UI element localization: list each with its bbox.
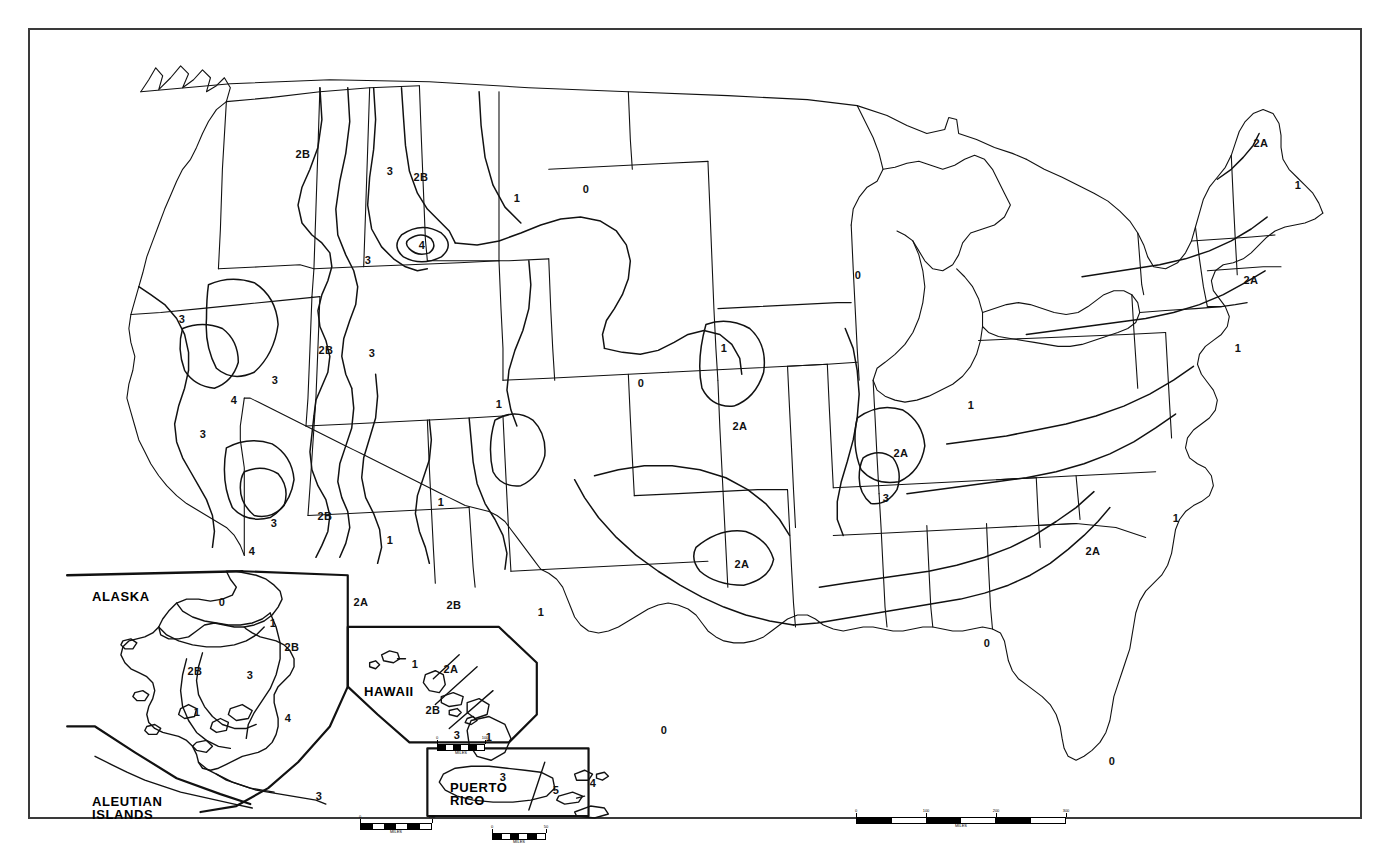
scalebar-tick-label-alaska-1: 200 (429, 814, 436, 819)
zone-label-z-nv-2b: 2B (319, 344, 334, 356)
zone-label-z-tx-0: 0 (661, 724, 668, 736)
zone-label-alaska-ak-2b: 2B (285, 641, 300, 653)
zone-label-z-az-2a: 2A (354, 596, 369, 608)
zone-label-z-nd-1: 1 (514, 192, 521, 204)
zone-label-alaska-ak-1b: 1 (194, 706, 201, 718)
zone-label-z-wa-2b: 2B (296, 148, 311, 160)
zone-label-z-ny-1: 1 (1235, 342, 1242, 354)
map-stage: 2B32B103432B330104312A2A112A12A2B113432A… (30, 30, 1360, 817)
zone-label-z-co-1: 1 (438, 496, 445, 508)
small-island-1 (597, 772, 609, 780)
zone-label-z-ar-3: 3 (883, 492, 890, 504)
zone-label-z-ca-4b: 4 (249, 545, 256, 557)
zone-label-alaska-ak-3: 3 (247, 669, 254, 681)
puerto-rico-inset-layer (30, 30, 1360, 817)
scalebar-alaska: 0200MILES (360, 823, 432, 830)
zone-label-z-ne-1: 1 (496, 398, 503, 410)
zone-label-z-me-1: 1 (1295, 179, 1302, 191)
map-frame: 2B32B103432B330104312A2A112A12A2B113432A… (28, 28, 1362, 819)
zone-label-z-az-2b: 2B (318, 510, 333, 522)
scalebar-tick-label-puerto-1: 50 (544, 824, 548, 829)
zone-label-z-il-2a: 2A (894, 447, 909, 459)
small-island-2 (577, 796, 585, 798)
zone-label-z-id-3: 3 (365, 254, 372, 266)
scalebar-tick-main-3 (1066, 813, 1067, 817)
zone-label-z-ca-3c: 3 (200, 428, 207, 440)
zone-label-z-ks-0: 0 (638, 377, 645, 389)
scalebar-tick-main-0 (856, 813, 857, 817)
scalebar-tick-label-main-1: 100 (923, 808, 930, 813)
zone-label-z-yellow-4: 4 (419, 239, 426, 251)
zone-label-puerto-rico-pr-5: 5 (553, 784, 560, 796)
zone-label-z-fl-0: 0 (1109, 755, 1116, 767)
zone-label-z-tx-1: 1 (538, 606, 545, 618)
zone-label-z-ct-2a: 2A (1244, 274, 1259, 286)
zone-label-z-nm-2b: 2B (447, 599, 462, 611)
scalebar-caption-puerto: MILES (513, 839, 525, 844)
pr-zone-line (529, 762, 545, 810)
scalebar-caption-hawaii: MILES (455, 750, 467, 755)
inset-title-aleutian: ALEUTIAN ISLANDS (92, 795, 163, 821)
zone-label-z-wi-0: 0 (855, 269, 862, 281)
inset-title-puerto: PUERTO RICO (450, 781, 508, 807)
zone-label-hawaii-hi-3: 3 (454, 729, 461, 741)
scalebar-tick-label-hawaii-1: 100 (482, 735, 489, 740)
scalebar-puerto: 050MILES (492, 833, 546, 840)
zone-label-z-ut-3: 3 (369, 347, 376, 359)
zone-label-z-mo-2a: 2A (733, 420, 748, 432)
zone-label-z-ia-1: 1 (721, 342, 728, 354)
zone-label-z-nd-0: 0 (583, 183, 590, 195)
zone-label-hawaii-hi-2b: 2B (426, 704, 441, 716)
scalebar-tick-main-1 (926, 813, 927, 817)
scalebar-tick-label-puerto-0: 0 (491, 824, 493, 829)
zone-label-z-mt-2b: 2B (414, 171, 429, 183)
scalebar-tick-label-main-3: 300 (1063, 808, 1070, 813)
zone-label-hawaii-hi-1: 1 (412, 658, 419, 670)
zone-label-alaska-ak-4: 4 (285, 712, 292, 724)
zone-label-z-me-2a: 2A (1254, 137, 1269, 149)
zone-label-alaska-ak-2b2: 2B (188, 665, 203, 677)
scalebar-main: 0100200300MILES (856, 817, 1066, 824)
zone-label-z-ca-3: 3 (179, 313, 186, 325)
st-croix (575, 806, 609, 818)
zone-label-puerto-rico-pr-4: 4 (590, 777, 597, 789)
zone-label-hawaii-hi-2a: 2A (444, 663, 459, 675)
scalebar-tick-label-alaska-0: 0 (359, 814, 361, 819)
zone-label-z-ok-2a: 2A (735, 558, 750, 570)
scalebar-hawaii: 0100MILES (437, 744, 485, 751)
zone-label-z-ca-3d: 3 (271, 517, 278, 529)
zone-label-z-mt-3: 3 (387, 165, 394, 177)
zone-label-z-ca-4: 4 (231, 394, 238, 406)
zone-label-z-sc-2a: 2A (1086, 545, 1101, 557)
scalebar-tick-puerto-0 (492, 829, 493, 833)
inset-title-alaska: ALASKA (92, 590, 150, 603)
scalebar-caption-main: MILES (955, 823, 967, 828)
scalebar-tick-label-main-2: 200 (993, 808, 1000, 813)
zone-label-alaska-ak-3b: 3 (316, 790, 323, 802)
scalebar-tick-alaska-0 (360, 819, 361, 823)
scalebar-tick-label-hawaii-0: 0 (436, 735, 438, 740)
zone-label-z-nv-3b: 3 (272, 374, 279, 386)
zone-label-alaska-ak-1: 1 (270, 617, 277, 629)
inset-title-hawaii: HAWAII (364, 685, 414, 698)
zone-label-z-ut-1: 1 (387, 534, 394, 546)
scalebar-tick-hawaii-0 (437, 740, 438, 744)
scalebar-tick-puerto-1 (546, 829, 547, 833)
scalebar-tick-main-2 (996, 813, 997, 817)
zone-label-z-nc-1: 1 (1173, 512, 1180, 524)
scalebar-tick-alaska-1 (432, 819, 433, 823)
scalebar-tick-label-main-0: 0 (855, 808, 857, 813)
zone-label-z-ga-0: 0 (984, 637, 991, 649)
scalebar-caption-alaska: MILES (390, 829, 402, 834)
scalebar-tick-hawaii-1 (485, 740, 486, 744)
zone-label-z-oh-1: 1 (968, 399, 975, 411)
zone-label-alaska-ak-0: 0 (219, 596, 226, 608)
